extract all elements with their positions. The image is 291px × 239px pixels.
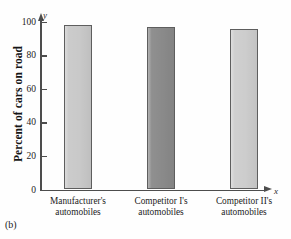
y-tick-label: 60	[27, 84, 37, 94]
y-tick-label: 20	[27, 151, 37, 161]
figure-caption: (b)	[5, 219, 17, 230]
x-axis-variable-label: x	[274, 186, 278, 196]
y-tick-label: 80	[27, 50, 37, 60]
x-category-label-line: Competitor II's	[189, 196, 291, 208]
bar	[64, 25, 92, 189]
bar	[230, 29, 258, 190]
y-tick-mark	[41, 156, 47, 157]
y-tick-mark	[41, 55, 47, 56]
x-category-label-line: automobiles	[189, 207, 291, 219]
x-category-label: Competitor II'sautomobiles	[189, 196, 291, 219]
y-tick-mark	[41, 190, 47, 191]
y-axis-title: Percent of cars on road	[12, 19, 24, 189]
y-tick-label: 100	[22, 17, 36, 27]
y-tick-mark	[41, 122, 47, 123]
bar-shading	[65, 26, 91, 188]
y-axis-line	[40, 20, 42, 191]
y-tick-label: 40	[27, 117, 37, 127]
bar-shading	[148, 28, 174, 189]
bar-shading	[231, 30, 257, 189]
plot-area: y x 020406080100 Manufacturer'sautomobil…	[40, 14, 272, 191]
x-axis-arrow-icon	[264, 186, 272, 192]
y-tick-label: 0	[31, 185, 36, 195]
y-axis-variable-label: y	[43, 10, 47, 20]
figure-panel-b: Percent of cars on road y x 020406080100…	[0, 0, 291, 239]
bar	[147, 27, 175, 190]
x-axis-line	[40, 190, 266, 192]
y-tick-mark	[41, 22, 47, 23]
y-tick-mark	[41, 89, 47, 90]
